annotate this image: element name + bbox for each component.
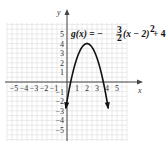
function-equation: g(x) = − 3 2 (x − 2) 2 + 4 xyxy=(70,24,166,43)
y-tick-label: 5 xyxy=(60,30,64,39)
y-tick-label: −3 xyxy=(55,107,64,116)
parabola-chart: −5−4−3−2−11234554321−1−2−3−4−5 y x g(x) … xyxy=(0,0,168,152)
x-tick-label: 2 xyxy=(85,84,89,93)
svg-text:g(x) = −: g(x) = − xyxy=(70,29,103,40)
y-tick-label: 3 xyxy=(60,49,64,58)
x-tick-label: 1 xyxy=(75,84,79,93)
y-tick-label: 1 xyxy=(60,68,64,77)
y-tick-label: −5 xyxy=(55,126,64,135)
x-tick-label: 3 xyxy=(95,84,99,93)
y-tick-label: 2 xyxy=(60,59,64,68)
y-tick-label: −4 xyxy=(55,116,64,125)
y-tick-label: 4 xyxy=(60,40,64,49)
y-tick-label: −2 xyxy=(55,97,64,106)
x-tick-label: −5 xyxy=(10,84,19,93)
x-tick-label: 5 xyxy=(115,84,119,93)
y-axis-label: y xyxy=(56,8,61,17)
svg-text:2: 2 xyxy=(117,33,122,43)
x-tick-label: −2 xyxy=(40,84,49,93)
svg-text:+ 4: + 4 xyxy=(153,29,166,39)
x-axis-label: x xyxy=(137,86,142,95)
x-tick-label: −4 xyxy=(20,84,29,93)
svg-text:(x − 2): (x − 2) xyxy=(123,29,149,40)
y-tick-label: −1 xyxy=(55,88,64,97)
x-tick-label: −3 xyxy=(30,84,39,93)
